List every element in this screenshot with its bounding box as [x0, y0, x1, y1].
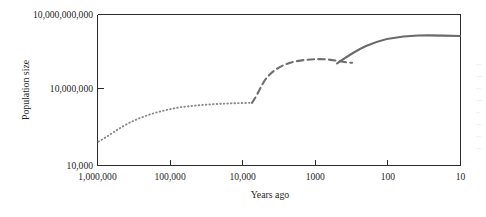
x-tick-label-10: 10 [456, 171, 466, 182]
population-size-vs-years-ago-chart: 10,000,000,000 10,000,000 10,000 1,000,0… [0, 0, 486, 217]
series-agricultural-phase [252, 59, 352, 103]
x-tick-label-1000000: 1,000,000 [78, 171, 117, 182]
series-hunter-gatherer-phase [99, 103, 253, 142]
population-growth-figure: 10,000,000,000 10,000,000 10,000 1,000,0… [0, 0, 486, 217]
y-tick-label-10000: 10,000 [67, 160, 94, 171]
x-tick-label-100000: 100,000 [155, 171, 186, 182]
y-axis-title: Population size [20, 59, 31, 120]
x-axis-title: Years ago [251, 189, 290, 200]
series-industrial-phase [337, 35, 460, 63]
y-tick-label-10000000: 10,000,000 [50, 83, 93, 94]
x-axis-ticks [98, 160, 461, 166]
data-series-group [99, 35, 461, 141]
y-tick-label-10000000000: 10,000,000,000 [33, 9, 93, 20]
x-tick-label-100: 100 [381, 171, 396, 182]
y-axis-tick-labels: 10,000,000,000 10,000,000 10,000 [33, 9, 93, 171]
x-tick-label-1000: 1000 [306, 171, 325, 182]
x-axis-tick-labels: 1,000,000 100,000 10,000 1000 100 10 [78, 171, 465, 182]
y-axis-ticks [98, 15, 104, 166]
scan-edge-artifact [476, 64, 483, 149]
x-tick-label-10000: 10,000 [230, 171, 257, 182]
